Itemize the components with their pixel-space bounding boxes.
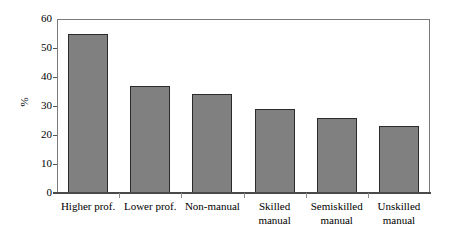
- x-tick-label-line: Skilled: [244, 199, 306, 213]
- x-tick-label: Unskilledmanual: [368, 199, 430, 227]
- x-tick-label-line: Lower prof.: [119, 199, 181, 213]
- y-tick-label: 50: [26, 42, 52, 53]
- y-tick-label: 20: [26, 129, 52, 140]
- x-tick-label-line: Semiskilled: [306, 199, 368, 213]
- y-tick-label: 10: [26, 158, 52, 169]
- category-separator: [244, 193, 245, 198]
- x-tick-label: Skilledmanual: [244, 199, 306, 227]
- bar-chart: % 6050403020100 Higher prof.Lower prof.N…: [0, 0, 454, 245]
- y-tick-label: 60: [26, 13, 52, 24]
- bar: [68, 34, 108, 194]
- bar: [130, 86, 170, 193]
- x-axis-baseline: [53, 192, 431, 194]
- y-tick-label: 30: [26, 100, 52, 111]
- x-tick-label-line: Non-manual: [181, 199, 243, 213]
- bar: [192, 94, 232, 193]
- x-axis-labels: Higher prof.Lower prof.Non-manualSkilled…: [57, 199, 430, 243]
- x-tick-label-line: manual: [368, 213, 430, 227]
- bar: [317, 118, 357, 193]
- category-separator: [119, 193, 120, 198]
- category-separator: [306, 193, 307, 198]
- x-tick-label: Non-manual: [181, 199, 243, 213]
- x-tick-label-line: Higher prof.: [57, 199, 119, 213]
- x-tick-label-line: manual: [306, 213, 368, 227]
- x-tick-label: Lower prof.: [119, 199, 181, 213]
- bar: [379, 126, 419, 193]
- bar: [255, 109, 295, 193]
- y-tick-label: 0: [26, 187, 52, 198]
- category-separator: [181, 193, 182, 198]
- y-tick-label: 40: [26, 71, 52, 82]
- x-tick-label-line: Unskilled: [368, 199, 430, 213]
- category-separator: [368, 193, 369, 198]
- bars-layer: [57, 19, 430, 193]
- x-tick-label: Semiskilledmanual: [306, 199, 368, 227]
- x-tick-label-line: manual: [244, 213, 306, 227]
- x-tick-label: Higher prof.: [57, 199, 119, 213]
